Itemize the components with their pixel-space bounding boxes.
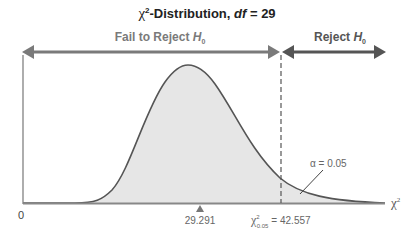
chart-title: χ2-Distribution, df = 29 [137, 5, 275, 21]
reject-arrow [282, 45, 386, 59]
fail-to-reject-label: Fail to Reject H0 [115, 30, 206, 45]
reject-label: Reject H0 [314, 30, 366, 45]
mean-label: 29.291 [185, 215, 216, 226]
fail-to-reject-arrow [22, 45, 280, 59]
critical-value-label: χ20.05= 42.557 [250, 213, 311, 229]
alpha-pointer [300, 170, 323, 194]
origin-label: 0 [18, 209, 24, 221]
mean-marker-icon [196, 205, 204, 212]
chi-square-chart: χ2-Distribution, df = 29 Fail to Reject … [0, 0, 414, 241]
x-axis-label: χ2 [390, 195, 401, 210]
density-fill [23, 65, 385, 203]
alpha-label: α = 0.05 [310, 158, 347, 169]
